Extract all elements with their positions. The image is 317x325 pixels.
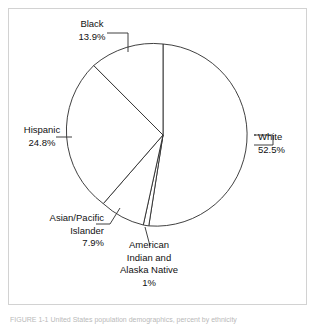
pie-label-black: Black 13.9% bbox=[62, 18, 122, 43]
pie-label-american-indian-alaska-native: American Indian and Alaska Native 1% bbox=[104, 239, 194, 289]
pie-label-hispanic-value: 24.8% bbox=[8, 137, 76, 150]
pie-label-hispanic-name: Hispanic bbox=[8, 124, 76, 137]
pie-label-amind-value: 1% bbox=[104, 277, 194, 290]
pie-label-amind-line2: Indian and bbox=[104, 252, 194, 265]
pie-label-white-value: 52.5% bbox=[258, 144, 314, 157]
pie-label-black-value: 13.9% bbox=[62, 31, 122, 44]
pie-label-asian-pacific-islander: Asian/Pacific Islander 7.9% bbox=[22, 212, 104, 250]
pie-label-asian-line2: Islander bbox=[22, 225, 104, 238]
pie-chart: Black 13.9% White 52.5% Hispanic 24.8% A… bbox=[0, 0, 317, 310]
pie-label-white-name: White bbox=[258, 131, 314, 144]
pie-label-amind-line1: American bbox=[104, 239, 194, 252]
pie-label-hispanic: Hispanic 24.8% bbox=[8, 124, 76, 149]
figure-caption: FIGURE 1-1 United States population demo… bbox=[10, 315, 310, 324]
pie-label-black-name: Black bbox=[62, 18, 122, 31]
pie-label-asian-line1: Asian/Pacific bbox=[22, 212, 104, 225]
pie-label-white: White 52.5% bbox=[258, 131, 314, 156]
pie-label-amind-line3: Alaska Native bbox=[104, 264, 194, 277]
pie-label-asian-value: 7.9% bbox=[22, 237, 104, 250]
